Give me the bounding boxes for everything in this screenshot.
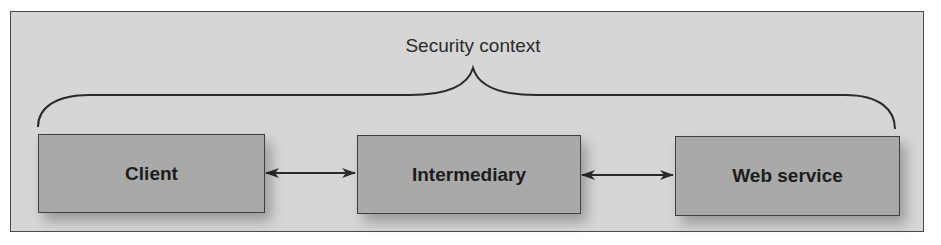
security-context-label: Security context: [373, 34, 573, 58]
node-client-label: Client: [125, 163, 178, 185]
node-web-service: Web service: [675, 136, 900, 216]
node-client: Client: [38, 134, 265, 213]
node-intermediary-label: Intermediary: [412, 164, 526, 186]
node-intermediary: Intermediary: [357, 135, 581, 214]
node-web-service-label: Web service: [732, 165, 843, 187]
